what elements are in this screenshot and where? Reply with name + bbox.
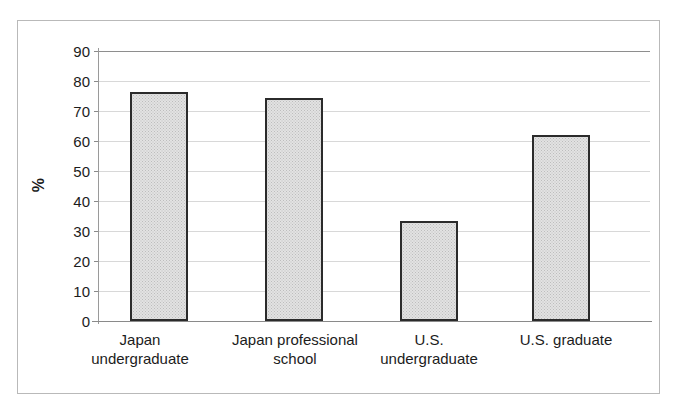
y-tick-label-20: 20 xyxy=(50,254,90,269)
x-category-label-japan-undergraduate: Japan undergraduate xyxy=(70,330,210,368)
x-category-label-line1: U.S. graduate xyxy=(496,330,636,349)
y-tick-label-0: 0 xyxy=(50,314,90,329)
x-category-label-line1: U.S. xyxy=(359,330,499,349)
y-tick-label-90: 90 xyxy=(50,44,90,59)
bar-chart: % 90 80 70 60 50 40 30 20 10 0 xyxy=(0,0,683,416)
gridline-80 xyxy=(99,81,650,82)
bar-us-graduate[interactable] xyxy=(532,135,590,321)
y-tick-label-40: 40 xyxy=(50,194,90,209)
x-category-label-line1: Japan xyxy=(70,330,210,349)
plot-area xyxy=(99,51,650,321)
bar-us-undergraduate[interactable] xyxy=(400,221,458,321)
x-category-label-line2: undergraduate xyxy=(70,349,210,368)
y-tick-label-10: 10 xyxy=(50,284,90,299)
bar-japan-undergraduate[interactable] xyxy=(130,92,188,321)
y-tick-label-30: 30 xyxy=(50,224,90,239)
y-tick-label-70: 70 xyxy=(50,104,90,119)
y-tick-label-80: 80 xyxy=(50,74,90,89)
bar-japan-professional-school[interactable] xyxy=(265,98,323,322)
x-category-label-us-graduate: U.S. graduate xyxy=(496,330,636,349)
figure: % 90 80 70 60 50 40 30 20 10 0 xyxy=(0,0,683,416)
y-tick-label-50: 50 xyxy=(50,164,90,179)
y-tick-label-60: 60 xyxy=(50,134,90,149)
gridline-90 xyxy=(99,51,650,52)
x-axis-line xyxy=(92,321,652,322)
x-category-label-line2: undergraduate xyxy=(359,349,499,368)
x-category-label-us-undergraduate: U.S. undergraduate xyxy=(359,330,499,368)
